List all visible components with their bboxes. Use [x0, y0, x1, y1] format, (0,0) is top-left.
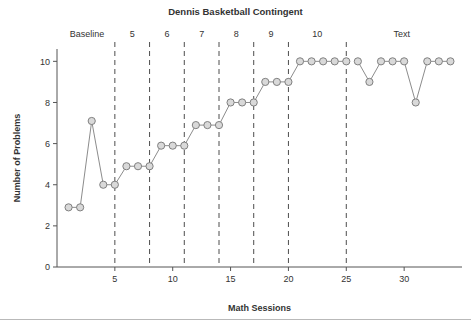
y-axis-title: Number of Problems: [12, 114, 22, 203]
chart-container: Dennis Basketball Contingent 02468105101…: [0, 0, 471, 326]
x-tick-label: 10: [168, 274, 178, 284]
y-tick-label: 8: [45, 98, 50, 108]
phase-label: 10: [312, 29, 322, 39]
data-point-marker[interactable]: [88, 117, 95, 124]
data-point-marker[interactable]: [146, 163, 153, 170]
data-point-marker[interactable]: [377, 58, 384, 65]
data-point-marker[interactable]: [227, 99, 234, 106]
x-tick-label: 15: [226, 274, 236, 284]
y-tick-label: 6: [45, 139, 50, 149]
phase-label: Baseline: [70, 29, 105, 39]
data-point-marker[interactable]: [424, 58, 431, 65]
data-point-marker[interactable]: [181, 142, 188, 149]
data-point-marker[interactable]: [296, 58, 303, 65]
data-point-marker[interactable]: [308, 58, 315, 65]
data-point-marker[interactable]: [215, 121, 222, 128]
y-tick-label: 2: [45, 221, 50, 231]
data-point-marker[interactable]: [366, 78, 373, 85]
x-axis-title: Math Sessions: [228, 303, 291, 313]
y-tick-label: 4: [45, 180, 50, 190]
data-point-marker[interactable]: [343, 58, 350, 65]
data-point-marker[interactable]: [65, 204, 72, 211]
data-point-marker[interactable]: [354, 58, 361, 65]
y-tick-label: 0: [45, 262, 50, 272]
data-point-marker[interactable]: [262, 78, 269, 85]
x-tick-label: 25: [341, 274, 351, 284]
x-tick-label: 5: [112, 274, 117, 284]
phase-label: Text: [394, 29, 411, 39]
data-point-marker[interactable]: [134, 163, 141, 170]
data-point-marker[interactable]: [285, 78, 292, 85]
x-tick-label: 20: [283, 274, 293, 284]
data-point-marker[interactable]: [412, 99, 419, 106]
data-point-marker[interactable]: [331, 58, 338, 65]
data-point-marker[interactable]: [204, 121, 211, 128]
data-point-marker[interactable]: [320, 58, 327, 65]
phase-label: 5: [130, 29, 135, 39]
data-point-marker[interactable]: [447, 58, 454, 65]
data-point-marker[interactable]: [77, 204, 84, 211]
data-point-marker[interactable]: [273, 78, 280, 85]
phase-label: 8: [234, 29, 239, 39]
data-point-marker[interactable]: [111, 181, 118, 188]
data-point-marker[interactable]: [123, 163, 130, 170]
phase-label: 6: [164, 29, 169, 39]
phase-label: 7: [199, 29, 204, 39]
line-chart-plot: 024681051015202530Math SessionsNumber of…: [0, 0, 471, 326]
data-point-marker[interactable]: [100, 181, 107, 188]
data-point-marker[interactable]: [239, 99, 246, 106]
footer-divider: [0, 319, 471, 320]
phase-label: 9: [269, 29, 274, 39]
data-line-segment: [69, 61, 347, 207]
data-point-marker[interactable]: [169, 142, 176, 149]
data-point-marker[interactable]: [435, 58, 442, 65]
x-tick-label: 30: [399, 274, 409, 284]
data-point-marker[interactable]: [158, 142, 165, 149]
data-point-marker[interactable]: [192, 121, 199, 128]
data-point-marker[interactable]: [401, 58, 408, 65]
data-point-marker[interactable]: [389, 58, 396, 65]
data-point-marker[interactable]: [250, 99, 257, 106]
y-tick-label: 10: [40, 57, 50, 67]
